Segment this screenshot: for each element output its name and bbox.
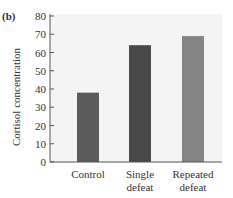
y-tick-label: 20 — [35, 120, 47, 132]
y-tick-label: 60 — [35, 47, 47, 59]
y-axis-label: Cortisol concentration — [10, 47, 22, 146]
y-tick-label: 80 — [35, 10, 47, 22]
y-tick-label: 0 — [41, 156, 47, 168]
x-tick-label: Single — [126, 168, 154, 180]
y-tick-label: 10 — [35, 138, 47, 150]
y-tick-label: 50 — [35, 65, 47, 77]
x-tick-label: defeat — [127, 181, 154, 193]
x-tick-label: Repeated — [173, 168, 214, 180]
bar — [77, 93, 99, 162]
bar-chart: (b) 01020304050607080 ControlSingledefea… — [0, 0, 233, 198]
y-tick-label: 70 — [35, 28, 47, 40]
bar — [129, 45, 151, 162]
x-tick-label: defeat — [180, 181, 207, 193]
x-tick-label: Control — [71, 168, 105, 180]
y-tick-label: 30 — [35, 101, 47, 113]
bar — [182, 36, 204, 162]
y-tick-label: 40 — [35, 83, 47, 95]
panel-label: (b) — [2, 10, 16, 23]
